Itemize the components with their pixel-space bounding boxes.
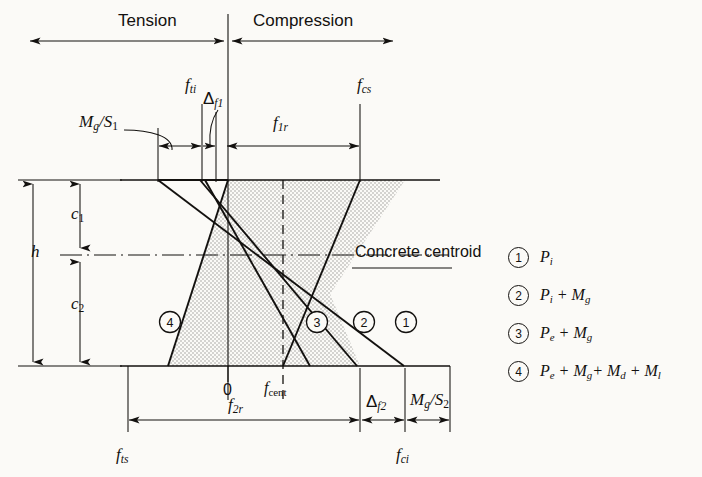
tension-label: Tension bbox=[118, 12, 177, 29]
case-marker-1: 1 bbox=[396, 312, 417, 333]
svg-text:1: 1 bbox=[403, 316, 410, 330]
f-ti-label: fti bbox=[185, 76, 196, 96]
f-2r-label: f2r bbox=[228, 396, 243, 416]
mg-s2-label: Mg/S2 bbox=[410, 391, 449, 411]
compression-label: Compression bbox=[253, 12, 353, 29]
legend-item-4: 4 Pe + Mg+ Md + Ml bbox=[508, 361, 661, 382]
svg-text:4: 4 bbox=[167, 316, 174, 330]
f-ts-label: fts bbox=[116, 446, 128, 466]
legend-item-2: 2 Pi + Mg bbox=[508, 285, 590, 306]
legend-label-3: Pe + Mg bbox=[540, 324, 592, 343]
legend-marker-2: 2 bbox=[508, 285, 529, 306]
legend-label-1: Pi bbox=[540, 248, 553, 267]
f-1r-label: f1r bbox=[273, 114, 288, 134]
legend-label-4: Pe + Mg+ Md + Ml bbox=[540, 362, 661, 381]
f-cent-label: fcent bbox=[264, 380, 287, 398]
c1-dimension-label: c1 bbox=[71, 205, 84, 225]
case-marker-4: 4 bbox=[160, 312, 181, 333]
legend-label-2: Pi + Mg bbox=[540, 286, 590, 305]
case-marker-3: 3 bbox=[307, 312, 328, 333]
legend-marker-4: 4 bbox=[508, 361, 529, 382]
legend-item-3: 3 Pe + Mg bbox=[508, 323, 592, 344]
mg-s1-label: Mg/S1 bbox=[79, 113, 118, 133]
stress-diagram-svg: 4 3 2 1 bbox=[0, 0, 702, 477]
svg-text:2: 2 bbox=[361, 316, 368, 330]
case-marker-2: 2 bbox=[354, 312, 375, 333]
delta-f1-label: Δf1 bbox=[203, 90, 223, 110]
legend-marker-1: 1 bbox=[508, 247, 529, 268]
c2-dimension-label: c2 bbox=[71, 295, 84, 315]
h-dimension-label: h bbox=[31, 243, 40, 260]
svg-text:3: 3 bbox=[314, 316, 321, 330]
legend-marker-3: 3 bbox=[508, 323, 529, 344]
f-ci-label: fci bbox=[396, 446, 409, 466]
f-cs-label: fcs bbox=[357, 76, 371, 96]
concrete-centroid-label: Concrete centroid bbox=[355, 244, 481, 260]
figure-root: 4 3 2 1 bbox=[0, 0, 702, 477]
delta-f2-label: Δf2 bbox=[366, 393, 386, 413]
legend-item-1: 1 Pi bbox=[508, 247, 553, 268]
